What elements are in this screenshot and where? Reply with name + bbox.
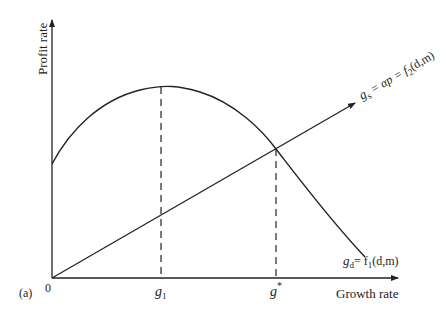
origin-label: 0 [45,281,51,295]
g1-tick-label: g1 [155,284,167,301]
x-axis-label: Growth rate [336,286,399,301]
y-axis-label: Profit rate [35,22,50,75]
growth-profit-diagram: Profit rate Growth rate 0 (a) g1 g* gd= … [0,0,447,313]
gstar-tick-label: g* [270,280,282,299]
savings-line [52,103,355,278]
demand-curve-label: gd= f1(d,m) [343,253,399,270]
savings-line-label: gs = αp = f2(d,m) [356,47,438,104]
panel-label: (a) [19,286,32,300]
demand-curve [52,86,365,257]
